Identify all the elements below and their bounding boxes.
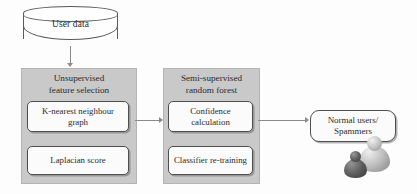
step-knn-graph-line2: graph [68, 117, 88, 127]
figurine-large-head-icon [367, 136, 382, 151]
step-confidence-calculation-text: Confidence calculation [190, 106, 231, 127]
step-confidence-calculation-line1: Confidence [190, 106, 231, 116]
output-label-line2: Spammers [334, 126, 372, 136]
step-knn-graph[interactable]: K-nearest neighbour graph [27, 101, 129, 132]
connector-datastore-to-unsupervised [70, 46, 71, 64]
user-data-label: User data [23, 19, 118, 29]
output-label-text: Normal users/ Spammers [328, 115, 379, 137]
panel-title-unsupervised-line2: feature selection [49, 85, 109, 95]
step-classifier-re-training-line1: Classifier re-training [174, 155, 247, 165]
connector-semisupervised-to-output [258, 120, 306, 121]
step-classifier-re-training-text: Classifier re-training [174, 155, 247, 166]
connector-unsupervised-to-semisupervised [135, 120, 161, 121]
step-laplacian-score-text: Laplacian score [50, 155, 105, 166]
output-label-line1: Normal users/ [328, 115, 379, 125]
flowchart-diagram: User data Unsupervised feature selection… [0, 0, 417, 194]
panel-title-semisupervised: Semi-supervised random forest [164, 73, 259, 96]
figurine-small-head-icon [350, 151, 361, 162]
step-classifier-re-training[interactable]: Classifier re-training [168, 146, 253, 175]
users-figurines-icon [344, 136, 392, 178]
step-confidence-calculation-line2: calculation [191, 117, 230, 127]
panel-title-unsupervised-line1: Unsupervised [54, 73, 105, 83]
arrow-head-down-icon [67, 63, 73, 67]
panel-title-semisupervised-line2: random forest [186, 85, 237, 95]
step-laplacian-score[interactable]: Laplacian score [27, 146, 129, 175]
user-data-datastore: User data [23, 6, 118, 46]
panel-title-semisupervised-line1: Semi-supervised [181, 73, 242, 83]
step-confidence-calculation[interactable]: Confidence calculation [168, 101, 253, 132]
panel-title-unsupervised: Unsupervised feature selection [22, 73, 136, 96]
step-knn-graph-text: K-nearest neighbour graph [42, 106, 114, 127]
arrow-head-right-icon [305, 117, 309, 123]
step-knn-graph-line1: K-nearest neighbour [42, 106, 114, 116]
step-laplacian-score-line1: Laplacian score [50, 155, 105, 165]
